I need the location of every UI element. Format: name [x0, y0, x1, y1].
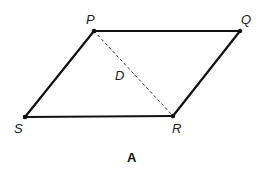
vertex-r-label: R: [172, 121, 181, 136]
vertex-s-dot: [23, 115, 28, 120]
figure-caption: A: [127, 150, 137, 165]
diagonal-pr: [94, 31, 173, 116]
side-rs: [25, 116, 173, 117]
side-qr: [173, 31, 240, 116]
vertex-p-label: P: [86, 12, 95, 27]
vertex-s-label: S: [14, 121, 23, 136]
parallelogram-diagram: P Q S R D A: [0, 0, 262, 172]
vertex-p-dot: [92, 29, 97, 34]
side-sp: [25, 31, 94, 117]
vertex-q-dot: [238, 29, 243, 34]
vertex-q-label: Q: [241, 12, 251, 27]
vertex-r-dot: [171, 114, 176, 119]
diagonal-d-label: D: [115, 68, 124, 83]
